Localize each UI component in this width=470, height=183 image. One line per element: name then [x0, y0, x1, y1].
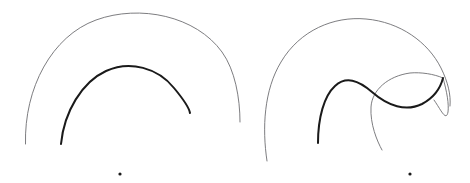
figure-right: [265, 19, 451, 161]
figure-left: [25, 13, 240, 144]
right-bottom-dot: [408, 172, 411, 175]
inner-thick-arc: [61, 66, 190, 144]
large-thin-circle-arc: [265, 19, 451, 161]
left-bottom-dot: [118, 172, 121, 175]
markers: [118, 172, 411, 175]
outer-thin-arc: [25, 13, 240, 144]
thick-s-curve: [318, 78, 443, 143]
drawing-canvas: [0, 0, 470, 183]
figures-svg: [0, 0, 470, 183]
small-thin-circle: [371, 73, 443, 150]
